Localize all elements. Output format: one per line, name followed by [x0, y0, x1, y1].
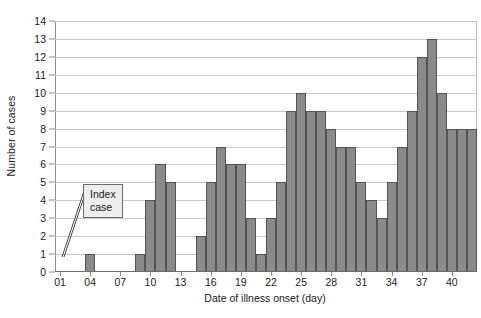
bar [206, 182, 216, 272]
bar [135, 254, 145, 272]
bar [407, 111, 417, 272]
bar [326, 129, 336, 272]
gridline [55, 93, 477, 94]
bar [296, 93, 306, 272]
y-axis-title: Number of cases [0, 0, 22, 272]
epi-curve-chart: Number of cases 01234567891011121314 010… [0, 0, 481, 318]
y-tick-label: 3 [40, 212, 46, 224]
bar [246, 218, 256, 272]
x-tick-label: 25 [295, 276, 307, 288]
y-tick-label: 0 [40, 266, 46, 278]
y-tick-label: 6 [40, 158, 46, 170]
bar [457, 129, 467, 272]
gridline [55, 21, 477, 22]
x-tick-label: 22 [265, 276, 277, 288]
bar [196, 236, 206, 272]
y-tick-label: 5 [40, 176, 46, 188]
x-tick-label: 13 [175, 276, 187, 288]
bar [427, 39, 437, 272]
y-tick-label: 8 [40, 123, 46, 135]
index-case-annotation: Index case [83, 184, 123, 218]
y-tick-label: 4 [40, 194, 46, 206]
bar [387, 182, 397, 272]
bar [417, 57, 427, 272]
bar [366, 200, 376, 272]
bar [256, 254, 266, 272]
bar [316, 111, 326, 272]
bar [145, 200, 155, 272]
x-tick-label: 34 [386, 276, 398, 288]
y-tick-label: 12 [34, 51, 46, 63]
bar [306, 111, 316, 272]
y-tick-label: 1 [40, 248, 46, 260]
bar [447, 129, 457, 272]
x-tick-label: 01 [54, 276, 66, 288]
y-tick-label: 2 [40, 230, 46, 242]
bar [166, 182, 176, 272]
bar [397, 147, 407, 273]
bar [85, 254, 95, 272]
bar [356, 182, 366, 272]
y-tick-label: 10 [34, 87, 46, 99]
bar [236, 164, 246, 272]
x-tick-label: 31 [356, 276, 368, 288]
x-tick-label: 19 [235, 276, 247, 288]
y-tick-label: 9 [40, 105, 46, 117]
x-tick-label: 28 [325, 276, 337, 288]
y-axis-title-text: Number of cases [5, 96, 17, 177]
bar [377, 218, 387, 272]
x-tick-label: 04 [84, 276, 96, 288]
bar [226, 164, 236, 272]
gridline [55, 57, 477, 58]
bar [346, 147, 356, 273]
x-tick-label: 37 [416, 276, 428, 288]
x-axis-title: Date of illness onset (day) [55, 292, 475, 304]
gridline [55, 39, 477, 40]
x-tick-label: 10 [145, 276, 157, 288]
x-tick-label: 40 [446, 276, 458, 288]
y-tick-label: 13 [34, 33, 46, 45]
bar [336, 147, 346, 273]
bar [437, 93, 447, 272]
y-tick-label: 11 [35, 69, 46, 81]
y-tick-label: 7 [40, 141, 46, 153]
bar [276, 182, 286, 272]
bar [216, 147, 226, 273]
bar [467, 129, 477, 272]
plot-area [55, 21, 477, 272]
bar [266, 218, 276, 272]
x-tick-label: 07 [114, 276, 126, 288]
y-tick-label: 14 [34, 15, 46, 27]
bar [286, 111, 296, 272]
bar [155, 164, 165, 272]
y-axis: 01234567891011121314 [22, 21, 55, 272]
x-axis: 0104071013161922252831343740 [55, 272, 477, 292]
x-tick-label: 16 [205, 276, 217, 288]
gridline [55, 75, 477, 76]
